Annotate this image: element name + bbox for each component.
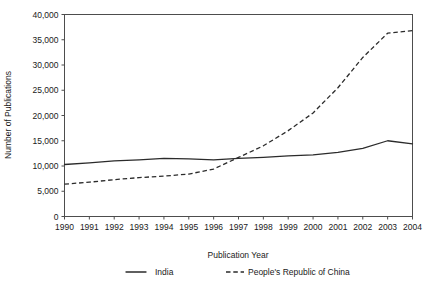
x-tick-label: 2001 (328, 222, 347, 232)
y-tick-label: 40,000 (33, 10, 59, 20)
y-tick-label: 35,000 (33, 35, 59, 45)
x-tick-label: 1996 (204, 222, 223, 232)
plot-area-border (65, 15, 413, 217)
y-tick-label: 20,000 (33, 111, 59, 121)
y-axis: 05,00010,00015,00020,00025,00030,00035,0… (33, 10, 65, 222)
x-tick-label: 1994 (154, 222, 173, 232)
x-tick-label: 1999 (279, 222, 298, 232)
line-chart: 05,00010,00015,00020,00025,00030,00035,0… (0, 0, 424, 288)
data-series-group (65, 31, 413, 185)
x-tick-label: 1998 (254, 222, 273, 232)
y-tick-label: 5,000 (37, 186, 59, 196)
x-axis: 1990199119921993199419951996199719981999… (55, 217, 422, 232)
y-tick-label: 30,000 (33, 60, 59, 70)
x-tick-label: 2002 (353, 222, 372, 232)
y-tick-label: 10,000 (33, 161, 59, 171)
x-tick-label: 2003 (378, 222, 397, 232)
x-axis-title: Publication Year (208, 250, 269, 260)
series-line-india (65, 141, 413, 165)
legend-label-india: India (155, 267, 174, 277)
x-tick-label: 1993 (130, 222, 149, 232)
x-tick-label: 1995 (179, 222, 198, 232)
plot-frame (65, 15, 413, 217)
y-axis-title: Number of Publications (3, 71, 13, 159)
x-tick-label: 1990 (55, 222, 74, 232)
x-tick-label: 2004 (403, 222, 422, 232)
y-tick-label: 0 (54, 212, 59, 222)
y-tick-label: 15,000 (33, 136, 59, 146)
chart-figure: 05,00010,00015,00020,00025,00030,00035,0… (0, 0, 424, 288)
x-tick-label: 1991 (80, 222, 99, 232)
legend-label-china: People's Republic of China (248, 267, 350, 277)
x-tick-label: 1992 (105, 222, 124, 232)
y-tick-label: 25,000 (33, 85, 59, 95)
chart-legend: India People's Republic of China (126, 267, 350, 277)
x-tick-label: 2000 (304, 222, 323, 232)
x-tick-label: 1997 (229, 222, 248, 232)
